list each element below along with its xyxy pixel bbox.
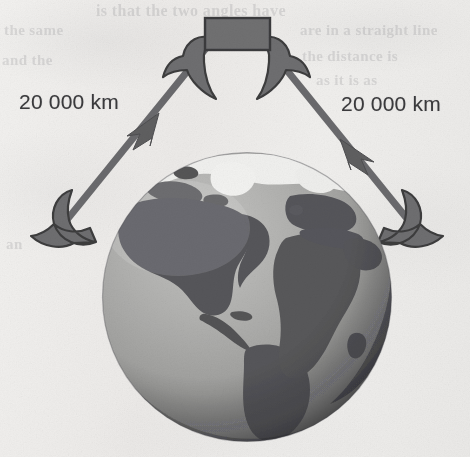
distance-label-right: 20 000 km — [341, 92, 441, 116]
scan-noise-overlay — [0, 0, 470, 457]
satellite-altitude-diagram: is that the two angles have are in a str… — [0, 0, 470, 457]
diagram-canvas — [0, 0, 470, 457]
distance-label-left: 20 000 km — [19, 90, 119, 114]
